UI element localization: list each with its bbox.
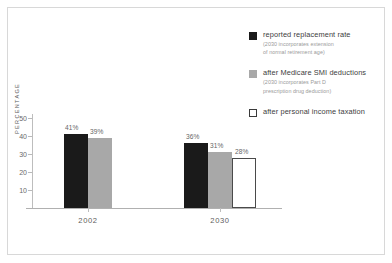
bar-2002-after-medicare-smi-deductions[interactable] bbox=[88, 138, 112, 208]
y-tick-label-50: 50 bbox=[19, 115, 27, 122]
y-axis-line bbox=[32, 114, 33, 208]
legend-item-after-medicare-smi-deductions[interactable]: after Medicare SMI deductions (2030 inco… bbox=[249, 68, 389, 94]
bar-2002-reported-replacement-rate[interactable] bbox=[64, 134, 88, 208]
bar-value-label: 39% bbox=[90, 128, 104, 135]
bar-2030-after-personal-income-taxation[interactable] bbox=[232, 158, 256, 208]
legend-item-reported-replacement-rate[interactable]: reported replacement rate (2030 incorpor… bbox=[249, 30, 389, 56]
legend-item-subtext-line2: of normal retirement age) bbox=[263, 49, 389, 56]
legend-item-subtext-line1: (2030 incorporates extension bbox=[263, 41, 389, 48]
x-axis-label-2030: 2030 bbox=[195, 216, 245, 225]
legend-item-label: reported replacement rate bbox=[263, 30, 389, 40]
legend-spacer bbox=[249, 59, 389, 68]
y-tick-mark bbox=[28, 154, 32, 155]
y-tick-label-40: 40 bbox=[19, 133, 27, 140]
y-tick-mark bbox=[28, 190, 32, 191]
legend-spacer bbox=[249, 98, 389, 107]
legend-item-subtext-line2: prescription drug deduction) bbox=[263, 88, 389, 95]
chart-frame: reported replacement rate (2030 incorpor… bbox=[7, 7, 385, 255]
y-axis-title: PERCENTAGE bbox=[14, 83, 20, 134]
chart-legend: reported replacement rate (2030 incorpor… bbox=[249, 30, 389, 120]
bar-value-label: 41% bbox=[65, 124, 79, 131]
bar-value-label: 28% bbox=[235, 148, 249, 155]
x-tick-mark bbox=[220, 208, 221, 212]
y-tick-label-20: 20 bbox=[19, 169, 27, 176]
x-tick-mark bbox=[88, 208, 89, 212]
legend-swatch-black-square bbox=[249, 32, 257, 40]
bar-value-label: 31% bbox=[210, 142, 224, 149]
y-tick-mark bbox=[28, 172, 32, 173]
plot-area: PERCENTAGE 50 40 30 20 10 41% 39% 2002 3… bbox=[32, 116, 282, 226]
y-tick-mark bbox=[28, 118, 32, 119]
y-tick-label-10: 10 bbox=[19, 187, 27, 194]
x-axis-label-2002: 2002 bbox=[63, 216, 113, 225]
x-axis-line bbox=[26, 208, 282, 209]
bar-2030-after-medicare-smi-deductions[interactable] bbox=[208, 152, 232, 208]
bar-value-label: 36% bbox=[186, 133, 200, 140]
legend-item-label: after Medicare SMI deductions bbox=[263, 68, 389, 78]
y-tick-label-30: 30 bbox=[19, 151, 27, 158]
legend-swatch-gray-square bbox=[249, 70, 257, 78]
y-tick-mark bbox=[28, 136, 32, 137]
legend-item-subtext-line1: (2030 incorporates Part D bbox=[263, 79, 389, 86]
bar-2030-reported-replacement-rate[interactable] bbox=[184, 143, 208, 208]
